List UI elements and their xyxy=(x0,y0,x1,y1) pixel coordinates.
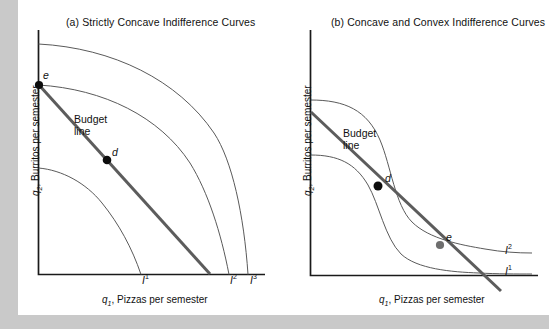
panel-a-curve-i2 xyxy=(39,85,230,275)
panel-a-point-d-marker xyxy=(103,156,112,165)
panel-a-curve-label-i2: I2 xyxy=(230,273,237,286)
panel-b-point-d-label: d xyxy=(385,172,391,184)
panel-a-point-d-label: d xyxy=(112,146,118,158)
panel-b-axes xyxy=(311,30,539,276)
panel-a-curve-label-i1: I1 xyxy=(142,273,149,286)
panel-b-budget-label-line1: Budget xyxy=(343,127,376,139)
panel-a-budget-label-line1: Budget xyxy=(74,113,107,125)
panel-b-budget-label-line2: line xyxy=(343,139,359,151)
panel-a-point-e-label: e xyxy=(43,69,49,81)
panel-a-curve-i3 xyxy=(39,44,249,275)
panel-a-curve-i1 xyxy=(39,168,142,275)
panel-b-point-e-marker xyxy=(436,241,444,249)
panel-a-plot xyxy=(18,0,283,315)
panel-a-axes xyxy=(39,30,266,275)
panel-b-curve-i2 xyxy=(311,100,533,253)
panel-b-point-e-label: e xyxy=(446,231,452,243)
panel-a-budget-line xyxy=(39,85,210,274)
panel-b-budget-line xyxy=(311,112,501,291)
panel-b-x-axis-label: q1, Pizzas per semester xyxy=(379,294,485,307)
figure-root: (a) Strictly Concave Indifference Curves… xyxy=(0,0,549,329)
panel-a-budget-label: Budget line xyxy=(74,114,107,137)
panel-a-budget-label-line2: line xyxy=(74,125,90,137)
panel-b-y-axis-label: q2, Burritos per semester xyxy=(302,85,315,196)
panel-b-point-d-marker xyxy=(374,182,383,191)
panel-a-strictly-concave: (a) Strictly Concave Indifference Curves… xyxy=(18,0,283,315)
panel-b-concave-convex: (b) Concave and Convex Indifference Curv… xyxy=(283,0,548,315)
panel-b-curve-label-i2: I2 xyxy=(505,243,512,256)
panel-a-x-axis-label: q1, Pizzas per semester xyxy=(102,294,208,307)
panel-b-curve-label-i1: I1 xyxy=(505,264,512,277)
panel-a-y-axis-label: q2, Burritos per semester xyxy=(30,85,43,196)
panel-a-curve-label-i3: I3 xyxy=(250,273,257,286)
panel-b-budget-label: Budget line xyxy=(343,128,376,151)
